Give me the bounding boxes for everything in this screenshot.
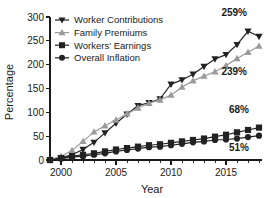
marker-circle	[179, 141, 185, 147]
y-tick-label: 50	[33, 131, 45, 142]
y-tick-label: 200	[27, 59, 44, 70]
legend-label: Workers' Earnings	[74, 40, 151, 51]
marker-circle	[245, 134, 251, 140]
marker-circle	[102, 150, 108, 156]
marker-circle	[124, 147, 130, 153]
marker-circle	[80, 153, 86, 159]
marker-circle	[58, 155, 64, 161]
marker-circle	[212, 137, 218, 143]
x-tick-label: 2005	[105, 167, 128, 178]
series-end-label: 68%	[229, 104, 249, 115]
marker-circle	[135, 145, 141, 151]
x-tick-label: 2000	[50, 167, 73, 178]
marker-circle	[69, 154, 75, 160]
marker-circle	[59, 55, 65, 61]
legend-label: Overall Inflation	[74, 52, 140, 63]
x-axis-title: Year	[141, 183, 164, 195]
series-end-label: 259%	[221, 7, 247, 18]
y-tick-label: 100	[27, 107, 44, 118]
marker-circle	[146, 144, 152, 150]
marker-circle	[168, 142, 174, 148]
legend-label: Worker Contributions	[74, 14, 163, 25]
marker-circle	[234, 135, 240, 141]
marker-circle	[256, 133, 262, 139]
marker-square	[256, 124, 262, 130]
marker-square	[245, 127, 251, 133]
series-end-label: 51%	[229, 142, 249, 153]
y-tick-label: 250	[27, 35, 44, 46]
marker-circle	[201, 138, 207, 144]
chart-container: 0501001502002503002000200520102015 Perce…	[0, 0, 266, 198]
marker-circle	[113, 148, 119, 154]
marker-circle	[190, 139, 196, 145]
y-tick-label: 0	[38, 155, 44, 166]
y-tick-label: 150	[27, 83, 44, 94]
marker-circle	[91, 152, 97, 158]
marker-square	[59, 42, 65, 48]
series-end-label: 239%	[221, 66, 247, 77]
marker-circle	[47, 157, 53, 163]
y-tick-label: 300	[27, 12, 44, 23]
marker-circle	[157, 144, 163, 150]
line-chart: 0501001502002503002000200520102015 Perce…	[0, 0, 266, 198]
x-tick-label: 2015	[215, 167, 238, 178]
marker-square	[234, 129, 240, 135]
y-axis-title: Percentage	[3, 64, 15, 120]
x-tick-label: 2010	[160, 167, 183, 178]
legend-label: Family Premiums	[74, 27, 148, 38]
